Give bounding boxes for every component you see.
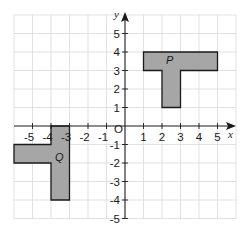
x-tick-label: -5	[24, 131, 34, 143]
y-axis-label: y	[113, 8, 119, 20]
coordinate-grid: -5 -4 -3 -2 -1 1 2 3 4 5 5 4 3 2 1 -1 -2…	[0, 0, 242, 237]
x-tick-label: 4	[196, 131, 203, 143]
x-tick-label: 5	[214, 131, 220, 143]
y-tick-label: -4	[110, 194, 121, 206]
x-tick-label: 3	[177, 131, 183, 143]
shape-p-label: P	[166, 54, 174, 66]
y-tick-label: 2	[114, 83, 120, 95]
x-tick-label: -3	[61, 131, 71, 143]
y-tick-label: 4	[114, 46, 121, 58]
y-tick-label: -2	[110, 157, 120, 169]
x-tick-label: -4	[42, 131, 53, 143]
y-tick-label: -3	[110, 176, 120, 188]
y-tick-label: 5	[114, 28, 120, 40]
y-tick-label: 3	[114, 65, 120, 77]
shape-q-label: Q	[55, 151, 64, 163]
y-tick-label: -5	[110, 213, 120, 225]
x-tick-label: -1	[98, 131, 108, 143]
x-axis-label: x	[227, 128, 233, 140]
y-tick-label: 1	[114, 102, 120, 114]
shape-p	[144, 52, 218, 108]
x-tick-label: 2	[159, 131, 165, 143]
y-tick-label: -1	[110, 139, 120, 151]
axes	[14, 12, 236, 219]
x-tick-label: 1	[140, 131, 146, 143]
origin-label: O	[114, 123, 123, 135]
x-tick-label: -2	[79, 131, 89, 143]
